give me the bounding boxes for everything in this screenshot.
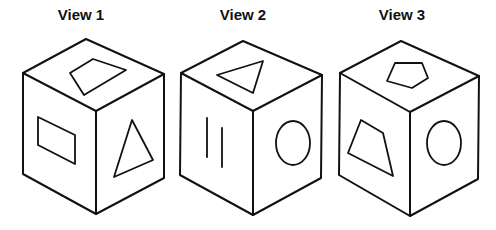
cube-2-top-triangle	[217, 61, 263, 93]
cube-3-top-pentagon	[387, 63, 428, 88]
cube-1-right-triangle	[114, 120, 153, 177]
cube-view-3	[339, 41, 479, 216]
cube-1-top-quadrilateral	[70, 59, 126, 95]
cube-view-2	[180, 41, 322, 215]
cube-views-diagram	[0, 0, 496, 230]
cube-1-inner-edges	[23, 73, 164, 111]
cube-3-inner-edges	[340, 73, 479, 112]
cube-1-left-rectangle	[38, 117, 75, 164]
cube-2-outline	[180, 41, 322, 215]
cube-3-right-circle	[427, 121, 461, 165]
cube-view-1	[23, 39, 164, 214]
cube-3-left-trapezoid	[348, 120, 393, 176]
cube-1-outline	[23, 39, 164, 214]
cube-2-right-circle	[276, 121, 310, 165]
